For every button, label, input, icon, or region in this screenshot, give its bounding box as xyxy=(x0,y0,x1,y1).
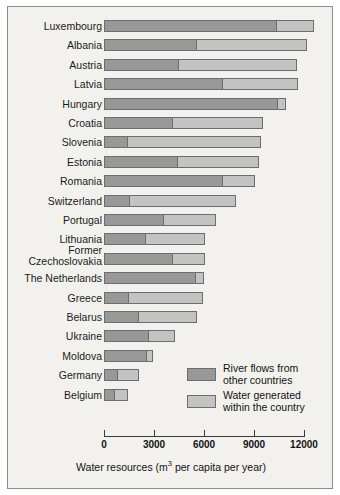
bar-row: Latvia xyxy=(8,77,334,91)
bar-row-label: Germany xyxy=(12,368,102,382)
bar-segment-internal-water xyxy=(138,311,197,323)
bar-segment-internal-water xyxy=(117,369,139,381)
bar-row-label: Albania xyxy=(12,38,102,52)
stacked-bar xyxy=(104,272,204,284)
stacked-bar xyxy=(104,78,298,90)
x-axis-title-tail: per capita per year) xyxy=(172,461,266,473)
bar-segment-internal-water xyxy=(178,59,297,71)
bar-row-label: Austria xyxy=(12,58,102,72)
bar-row-label: Belarus xyxy=(12,310,102,324)
bar-row-label: Croatia xyxy=(12,116,102,130)
bar-segment-river-flows xyxy=(104,350,147,362)
legend-label-line1: Water generated xyxy=(223,390,328,402)
x-axis-tick-label: 12000 xyxy=(290,439,318,450)
stacked-bar xyxy=(104,39,307,51)
bar-segment-internal-water xyxy=(129,195,236,207)
bar-segment-internal-water xyxy=(172,253,205,265)
bar-row-label: Former Czechoslovakia xyxy=(12,245,102,267)
bar-segment-internal-water xyxy=(177,156,259,168)
bar-row: Romania xyxy=(8,174,334,188)
stacked-bar xyxy=(104,136,261,148)
bar-segment-internal-water xyxy=(172,117,263,129)
bar-row-label: Switzerland xyxy=(12,194,102,208)
stacked-bar xyxy=(104,389,128,401)
x-axis-tick xyxy=(254,430,255,437)
bar-row-label: Greece xyxy=(12,291,102,305)
legend-swatch xyxy=(187,368,216,381)
bar-segment-internal-water xyxy=(195,272,204,284)
bar-row: Croatia xyxy=(8,116,334,130)
bar-segment-internal-water xyxy=(127,136,261,148)
x-axis: 030006000900012000 xyxy=(104,428,314,440)
x-axis-tick-label: 9000 xyxy=(243,439,265,450)
stacked-bar xyxy=(104,369,139,381)
stacked-bar xyxy=(104,175,255,187)
bar-row-label: Belgium xyxy=(12,388,102,402)
legend-label: Water generatedwithin the country xyxy=(223,390,328,413)
legend-entry: River flows fromother countries xyxy=(187,365,332,389)
x-axis-tick-label: 3000 xyxy=(143,439,165,450)
stacked-bar xyxy=(104,117,263,129)
bar-row: Former Czechoslovakia xyxy=(8,252,334,266)
chart-figure: LuxembourgAlbaniaAustriaLatviaHungaryCro… xyxy=(0,0,340,495)
bar-row: Switzerland xyxy=(8,194,334,208)
bar-row-label: Slovenia xyxy=(12,135,102,149)
bar-segment-river-flows xyxy=(104,195,130,207)
bar-segment-river-flows xyxy=(104,78,223,90)
bar-segment-river-flows xyxy=(104,175,223,187)
bar-segment-internal-water xyxy=(277,98,286,110)
stacked-bar xyxy=(104,195,236,207)
bar-segment-river-flows xyxy=(104,369,118,381)
stacked-bar xyxy=(104,156,259,168)
bar-row: Luxembourg xyxy=(8,19,334,33)
bar-row-label: Latvia xyxy=(12,77,102,91)
legend-label-line2: other countries xyxy=(223,375,328,387)
bar-row-label: Luxembourg xyxy=(12,19,102,33)
bar-row-label: Ukraine xyxy=(12,329,102,343)
bar-segment-river-flows xyxy=(104,292,129,304)
bar-segment-river-flows xyxy=(104,272,196,284)
x-axis-tick-label: 6000 xyxy=(193,439,215,450)
bar-segment-internal-water xyxy=(196,39,307,51)
bar-row: The Netherlands xyxy=(8,271,334,285)
bar-row: Ukraine xyxy=(8,329,334,343)
plot-area: LuxembourgAlbaniaAustriaLatviaHungaryCro… xyxy=(7,6,333,489)
bar-segment-internal-water xyxy=(222,175,255,187)
bar-row-label: Hungary xyxy=(12,97,102,111)
bar-segment-river-flows xyxy=(104,98,278,110)
bar-segment-river-flows xyxy=(104,20,277,32)
bar-segment-internal-water xyxy=(145,233,205,245)
x-axis-tick xyxy=(104,430,105,437)
bar-row: Greece xyxy=(8,291,334,305)
legend-label-line2: within the country xyxy=(223,402,328,414)
stacked-bar xyxy=(104,350,153,362)
bar-row: Hungary xyxy=(8,97,334,111)
bar-row: Portugal xyxy=(8,213,334,227)
bar-row-label: The Netherlands xyxy=(12,271,102,285)
stacked-bar xyxy=(104,59,297,71)
bar-segment-river-flows xyxy=(104,253,173,265)
x-axis-title-base: Water resources (m xyxy=(76,461,168,473)
bar-row-label: Romania xyxy=(12,174,102,188)
bar-segment-internal-water xyxy=(222,78,298,90)
bar-segment-river-flows xyxy=(104,330,149,342)
bar-row-label: Portugal xyxy=(12,213,102,227)
stacked-bar xyxy=(104,292,203,304)
legend-swatch xyxy=(187,395,216,408)
stacked-bar xyxy=(104,20,314,32)
stacked-bar xyxy=(104,253,205,265)
x-axis-tick-label: 0 xyxy=(101,439,107,450)
bar-segment-river-flows xyxy=(104,214,164,226)
bar-segment-internal-water xyxy=(148,330,175,342)
bar-segment-river-flows xyxy=(104,156,178,168)
bar-segment-internal-water xyxy=(276,20,314,32)
stacked-bar xyxy=(104,214,216,226)
bar-row: Estonia xyxy=(8,155,334,169)
legend-entry: Water generatedwithin the country xyxy=(187,392,332,416)
bar-segment-river-flows xyxy=(104,59,179,71)
stacked-bar xyxy=(104,233,205,245)
bar-row: Belarus xyxy=(8,310,334,324)
stacked-bar xyxy=(104,98,286,110)
bar-row: Albania xyxy=(8,38,334,52)
bar-segment-river-flows xyxy=(104,117,173,129)
